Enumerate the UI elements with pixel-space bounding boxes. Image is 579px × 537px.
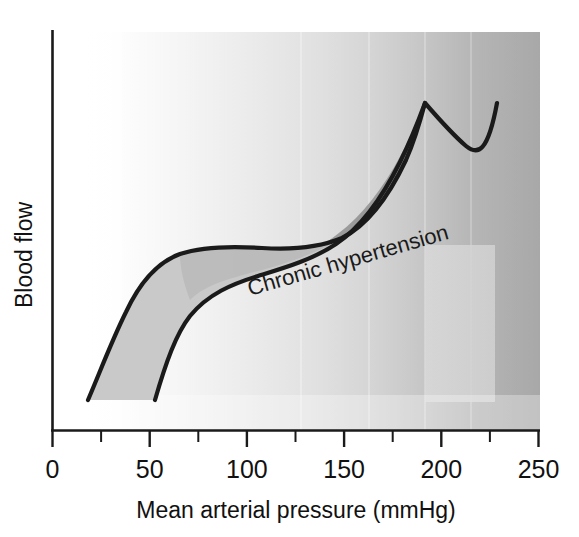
autoregulation-chart-figure: Chronic hypertension 0 50 100: [0, 0, 579, 537]
x-tick-label-200: 200: [420, 455, 462, 483]
x-axis-tick-labels: 0 50 100 150 200 250: [46, 455, 560, 483]
x-tick-label-150: 150: [323, 455, 365, 483]
y-axis-title: Blood flow: [11, 202, 37, 309]
x-axis-minor-ticks: [101, 431, 490, 442]
x-tick-label-0: 0: [46, 455, 60, 483]
x-axis-title: Mean arterial pressure (mmHg): [136, 497, 456, 523]
x-tick-label-100: 100: [226, 455, 268, 483]
x-tick-label-50: 50: [136, 455, 164, 483]
x-tick-label-250: 250: [518, 455, 560, 483]
